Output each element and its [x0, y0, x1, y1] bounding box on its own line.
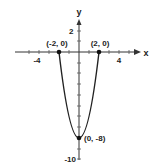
x-tick-label-4: 4: [117, 56, 122, 65]
x-tick-label-neg4: -4: [33, 56, 41, 65]
y-axis-label: y: [76, 7, 81, 17]
vertex-label: (0, -8): [84, 134, 106, 143]
x-axis-arrow-icon: [134, 49, 141, 55]
point-right-root: [97, 50, 102, 55]
x-axis: x -4 4: [15, 48, 149, 66]
parabola-graph: x -4 4 y 2 -10 (-2, 0) (2, 0): [0, 0, 154, 163]
y-tick-label-neg10: -10: [64, 155, 76, 163]
point-vertex: [77, 136, 82, 141]
y-axis-arrow-icon: [77, 19, 82, 25]
left-root-label: (-2, 0): [46, 39, 68, 48]
point-left-root: [57, 50, 62, 55]
y-tick-label-2: 2: [69, 27, 74, 36]
x-axis-label: x: [143, 48, 148, 58]
right-root-label: (2, 0): [91, 39, 110, 48]
